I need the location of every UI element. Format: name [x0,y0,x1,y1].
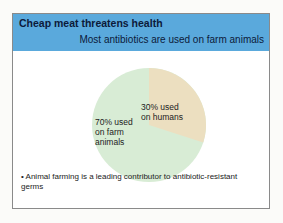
footnote-bullet: • Animal farming is a leading contributo… [21,172,261,192]
header-band: Cheap meat threatens health Most antibio… [13,14,269,51]
chart-subtitle: Most antibiotics are used on farm animal… [79,34,264,45]
label-humans: 30% used on humans [141,102,183,122]
chart-title: Cheap meat threatens health [19,17,163,29]
label-farm-animals: 70% used on farm animals [95,117,133,147]
infographic-frame: Cheap meat threatens health Most antibio… [12,13,270,209]
